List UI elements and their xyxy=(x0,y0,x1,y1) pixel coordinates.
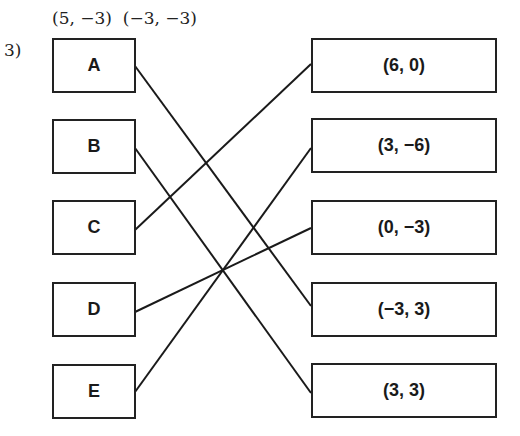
left-box-label: B xyxy=(88,136,101,157)
right-box-label: (6, 0) xyxy=(383,55,425,76)
right-box-3[interactable]: (0, −3) xyxy=(311,200,497,255)
left-box-label: C xyxy=(88,217,101,238)
right-box-label: (0, −3) xyxy=(378,217,431,238)
right-box-4[interactable]: (−3, 3) xyxy=(311,282,497,337)
left-box-e[interactable]: E xyxy=(52,364,136,419)
right-box-label: (3, 3) xyxy=(383,380,425,401)
left-box-a[interactable]: A xyxy=(52,38,136,93)
left-box-b[interactable]: B xyxy=(52,119,136,174)
left-box-label: D xyxy=(88,299,101,320)
left-box-d[interactable]: D xyxy=(52,282,136,337)
right-box-1[interactable]: (6, 0) xyxy=(311,38,497,93)
left-box-label: E xyxy=(88,381,100,402)
right-box-label: (−3, 3) xyxy=(378,299,431,320)
match-line-c xyxy=(135,64,311,230)
right-box-5[interactable]: (3, 3) xyxy=(311,363,497,418)
left-box-label: A xyxy=(88,55,101,76)
right-box-2[interactable]: (3, −6) xyxy=(311,118,497,173)
right-box-label: (3, −6) xyxy=(378,135,431,156)
left-box-c[interactable]: C xyxy=(52,200,136,255)
